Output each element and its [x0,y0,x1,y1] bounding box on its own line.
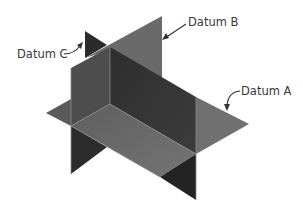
arrow-datum-b [165,24,186,38]
label-datum-a: Datum A [241,86,291,98]
arrow-datum-a [227,91,240,106]
arrowhead-b-icon [162,33,169,40]
arrowhead-a-icon [224,104,230,111]
datum-a-plane-left [46,99,71,126]
datum-a-plane-right [196,97,249,154]
label-datum-c: Datum C [17,49,68,61]
datum-planes-diagram [0,0,303,212]
label-datum-b: Datum B [188,17,238,29]
